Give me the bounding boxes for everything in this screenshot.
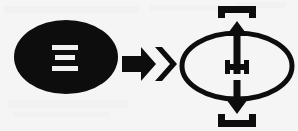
scan-ghost-band [14, 112, 109, 117]
down-arrow-shaft [234, 80, 241, 102]
arrow-chevron [155, 47, 177, 81]
left-panel-label: Solid black ellipse containing white Xi … [13, 19, 14, 20]
arrow-body [122, 47, 156, 81]
i-beam-left-serif [225, 60, 230, 74]
scan-ghost-band [4, 6, 139, 13]
xi-bar-top [52, 45, 78, 50]
top-bracket-icon [218, 6, 256, 18]
figure-canvas: Solid black ellipse containing white Xi … [0, 0, 298, 131]
bottom-bracket-icon [218, 114, 256, 127]
outline-ellipse-diagram [178, 2, 296, 130]
xi-bar-bottom [52, 66, 78, 71]
transformation-arrow-panel: Thick rightward double-chevron arrow [122, 45, 174, 83]
filled-ellipse-panel: Solid black ellipse containing white Xi … [14, 20, 118, 94]
double-chevron-arrow-icon [122, 45, 174, 83]
i-beam-right-serif [244, 60, 249, 74]
scan-ghost-band [8, 100, 128, 108]
outline-ellipse-panel: Outlined ellipse with vertical up and do… [178, 2, 296, 130]
i-beam-stem [230, 64, 244, 70]
xi-symbol-icon [52, 45, 78, 71]
down-arrow-head [226, 99, 248, 114]
xi-bar-middle [55, 55, 75, 60]
